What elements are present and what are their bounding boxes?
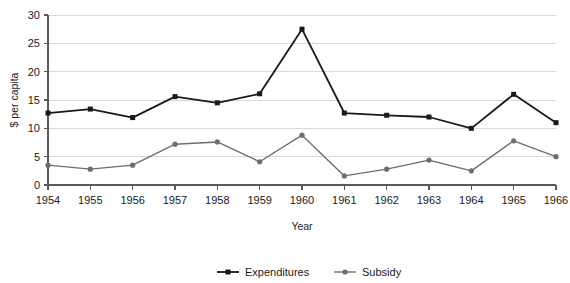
y-axis-title: $ per capita <box>8 72 20 127</box>
x-axis-tick-label: 1960 <box>290 194 314 206</box>
data-point-marker <box>299 133 304 138</box>
data-point-marker <box>511 92 516 97</box>
legend-marker <box>342 269 347 274</box>
x-axis-tick-label: 1961 <box>332 194 356 206</box>
data-point-marker <box>88 167 93 172</box>
data-point-marker <box>342 111 347 116</box>
y-axis-tick-label: 15 <box>28 94 40 106</box>
x-axis-tick-label: 1962 <box>374 194 398 206</box>
data-point-marker <box>130 163 135 168</box>
data-point-marker <box>553 154 558 159</box>
data-point-marker <box>172 142 177 147</box>
data-point-marker <box>130 115 135 120</box>
legend-marker <box>226 270 231 275</box>
x-axis-title: Year <box>291 220 313 232</box>
x-axis-tick-label: 1964 <box>459 194 483 206</box>
x-axis-tick-label: 1955 <box>78 194 102 206</box>
data-point-marker <box>426 157 431 162</box>
y-axis-tick-label: 0 <box>34 179 40 191</box>
x-axis-tick-label: 1965 <box>501 194 525 206</box>
data-point-marker <box>427 115 432 120</box>
legend-label: Expenditures <box>245 266 310 278</box>
data-point-marker <box>173 94 178 99</box>
data-point-marker <box>88 107 93 112</box>
y-axis-tick-label: 25 <box>28 37 40 49</box>
data-point-marker <box>257 91 262 96</box>
x-axis-tick-label: 1954 <box>36 194 60 206</box>
x-axis-tick-label: 1957 <box>163 194 187 206</box>
data-point-marker <box>342 173 347 178</box>
x-axis-tick-label: 1966 <box>544 194 568 206</box>
y-axis-tick-label: 30 <box>28 9 40 21</box>
line-chart: 051015202530 195419551956195719581959196… <box>0 0 570 283</box>
data-point-marker <box>215 100 220 105</box>
data-point-marker <box>384 167 389 172</box>
data-point-marker <box>300 27 305 32</box>
x-axis-tick-label: 1959 <box>247 194 271 206</box>
y-axis-tick-label: 20 <box>28 66 40 78</box>
data-point-marker <box>257 159 262 164</box>
data-point-marker <box>511 138 516 143</box>
data-point-marker <box>45 163 50 168</box>
x-axis-tick-label: 1963 <box>417 194 441 206</box>
data-point-marker <box>46 111 51 116</box>
data-point-marker <box>215 139 220 144</box>
x-axis-tick-label: 1956 <box>120 194 144 206</box>
chart-container: 051015202530 195419551956195719581959196… <box>0 0 570 283</box>
data-point-marker <box>469 126 474 131</box>
data-point-marker <box>554 120 559 125</box>
data-point-marker <box>469 168 474 173</box>
y-axis-tick-label: 5 <box>34 151 40 163</box>
x-axis-tick-label: 1958 <box>205 194 229 206</box>
y-axis-tick-label: 10 <box>28 122 40 134</box>
chart-background <box>0 0 570 283</box>
data-point-marker <box>384 113 389 118</box>
legend-label: Subsidy <box>362 266 402 278</box>
